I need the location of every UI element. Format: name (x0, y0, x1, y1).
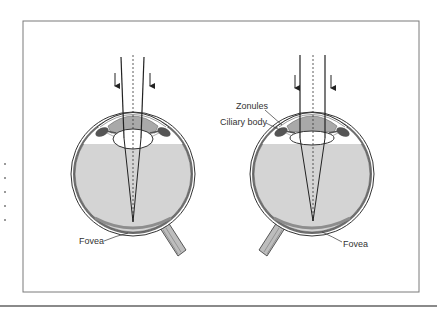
figure: Fovea Zonules Ciliary body Fovea (0, 0, 437, 309)
eye-accommodation-diagram (0, 0, 437, 309)
label-fovea-distant: Fovea (343, 239, 368, 249)
lens-thin (290, 131, 334, 145)
eye-distant (250, 55, 380, 256)
margin-marks (4, 163, 8, 233)
label-fovea-near: Fovea (79, 236, 104, 246)
eye-near (70, 55, 200, 256)
label-ciliary-body: Ciliary body (220, 117, 267, 127)
label-zonules: Zonules (236, 101, 268, 111)
